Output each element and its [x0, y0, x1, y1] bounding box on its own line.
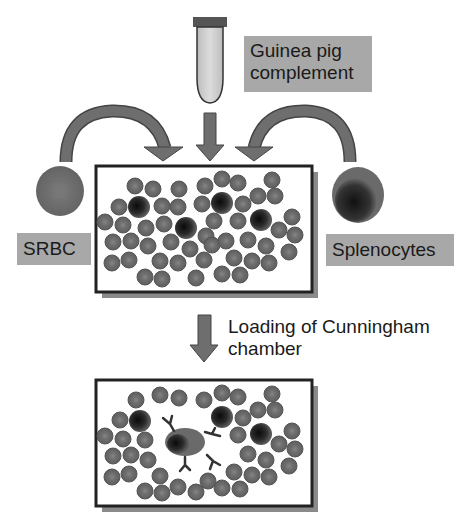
arrow-down-icon [196, 113, 224, 161]
red-blood-cell-icon [36, 166, 84, 216]
curved-arrow-left-icon [66, 111, 183, 162]
loading-label: Loading of Cunningham chamber [228, 316, 468, 360]
pfc-assay-diagram: Guinea pig complement SRBC Splenocytes L… [0, 0, 471, 530]
mixture-chamber [96, 166, 318, 298]
loading-label-line2: chamber [228, 338, 468, 360]
complement-label-line1: Guinea pig [250, 40, 366, 62]
plaque-forming-cell [165, 428, 205, 456]
complement-label: Guinea pig complement [244, 36, 372, 92]
microcentrifuge-tube-icon [193, 17, 227, 103]
splenocytes-label-text: Splenocytes [332, 239, 436, 260]
splenocytes-label: Splenocytes [326, 234, 454, 266]
complement-label-line2: complement [250, 62, 366, 84]
curved-arrow-right-icon [235, 111, 350, 162]
lymphocyte-icon [332, 167, 384, 223]
loading-label-line1: Loading of Cunningham [228, 316, 468, 338]
srbc-label-text: SRBC [23, 238, 76, 259]
arrow-down-icon [190, 315, 218, 362]
cunningham-chamber [96, 380, 318, 512]
srbc-label: SRBC [17, 233, 91, 265]
